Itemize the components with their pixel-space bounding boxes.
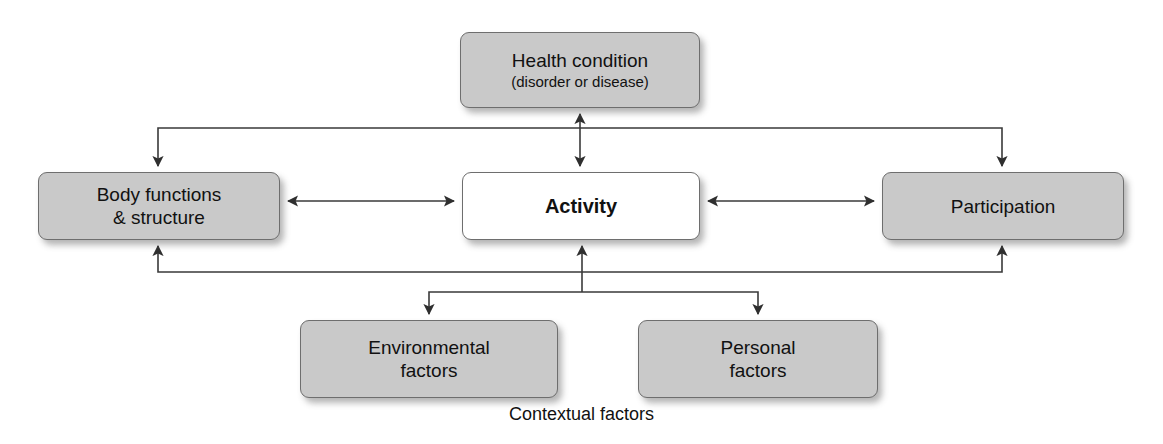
node-activity-title: Activity	[545, 195, 617, 218]
node-body-functions[interactable]: Body functions & structure	[38, 172, 280, 240]
diagram-canvas: Health condition (disorder or disease) B…	[0, 0, 1163, 444]
edge-contextual-to-body	[158, 246, 582, 272]
edge-contextual-to-participation	[582, 246, 1002, 272]
node-activity[interactable]: Activity	[462, 172, 700, 240]
node-personal-factors[interactable]: Personal factors	[638, 320, 878, 398]
edge-health-to-participation	[580, 128, 1002, 166]
node-health-condition-subtitle: (disorder or disease)	[511, 72, 649, 91]
node-participation-title: Participation	[951, 195, 1056, 218]
contextual-factors-caption: Contextual factors	[0, 404, 1163, 425]
node-environmental-factors-line1: Environmental	[368, 336, 489, 359]
node-health-condition[interactable]: Health condition (disorder or disease)	[460, 32, 700, 108]
node-personal-factors-line1: Personal	[721, 336, 796, 359]
edge-branch-personal	[582, 292, 758, 314]
edge-health-to-body	[158, 128, 580, 166]
node-participation[interactable]: Participation	[882, 172, 1124, 240]
node-body-functions-line2: & structure	[113, 206, 205, 229]
node-personal-factors-line2: factors	[729, 359, 786, 382]
node-health-condition-title: Health condition	[512, 49, 648, 72]
node-body-functions-line1: Body functions	[97, 183, 222, 206]
node-environmental-factors-line2: factors	[400, 359, 457, 382]
edge-branch-environmental	[429, 292, 582, 314]
node-environmental-factors[interactable]: Environmental factors	[300, 320, 558, 398]
